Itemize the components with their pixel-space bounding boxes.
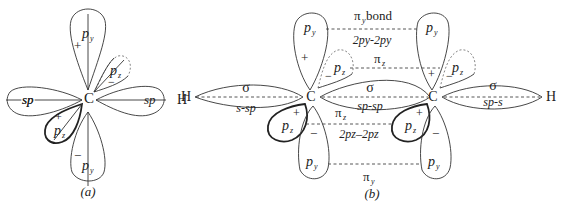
left-pz-back-sign: − <box>325 69 332 83</box>
pz-back-sub: z <box>117 71 122 80</box>
caption-b: (b) <box>364 186 379 201</box>
sigma-right-type: sp-s <box>483 95 503 109</box>
right-pz-front-sub: z <box>412 126 417 135</box>
pi-z-top-sub: z <box>381 59 386 68</box>
caption-a: (a) <box>80 184 95 199</box>
sigma-left-label: σ <box>242 80 250 95</box>
py-bottom-sub: y <box>89 166 94 175</box>
sigma-center-label: σ <box>366 80 374 95</box>
hydrogen-right: H <box>546 89 556 104</box>
left-py-bottom-label: p <box>305 154 313 169</box>
pi-z-bottom-overlap: 2pz–2pz <box>339 127 379 141</box>
right-pz-back-sign: − <box>446 69 453 83</box>
pi-y-bottom-label: π <box>363 169 370 184</box>
pz-front-label: p <box>53 123 61 138</box>
left-py-top-sub: y <box>311 28 316 37</box>
sp-left-lobe <box>7 87 82 116</box>
pz-front-sign: + <box>55 110 62 124</box>
py-top-label: p <box>81 26 89 41</box>
sigma-left-type: s-sp <box>236 101 255 115</box>
figure-a: C H p y + p y − p z − p z + sp sp sp (a) <box>6 9 187 199</box>
pi-y-top-label: π <box>354 8 361 23</box>
right-py-bottom-sub: y <box>435 162 440 171</box>
right-py-bottom-sign: − <box>432 126 439 141</box>
left-pz-back-sub: z <box>341 68 346 77</box>
pi-z-top-label: π <box>374 51 381 66</box>
left-py-bottom-sign: − <box>310 126 317 141</box>
pi-z-bottom-label: π <box>335 105 342 120</box>
py-bottom-label: p <box>81 158 89 173</box>
left-pz-back-label: p <box>333 60 341 75</box>
orbital-diagram: C H p y + p y − p z − p z + sp sp sp (a)… <box>0 0 561 210</box>
right-py-top-sub: y <box>433 28 438 37</box>
right-pz-front-sign: + <box>416 106 423 120</box>
left-py-top-label: p <box>303 20 311 35</box>
left-py-top-sign: + <box>301 50 308 65</box>
py-bottom-sign: − <box>74 148 81 163</box>
right-pz-front-label: p <box>404 118 412 133</box>
carbon-left: C <box>306 89 315 104</box>
pz-front-sub: z <box>61 131 66 140</box>
hydrogen-left: H <box>181 89 191 104</box>
right-py-top-label: p <box>425 20 433 35</box>
py-top-sign: + <box>74 38 81 53</box>
pi-y-top-overlap: 2py-2py <box>353 33 392 47</box>
sigma-center-type: sp-sp <box>357 99 382 113</box>
sigma-right-label: σ <box>489 78 497 93</box>
sp-right-label: sp <box>144 92 156 107</box>
carbon-atom-a: C <box>84 90 94 106</box>
py-top-sub: y <box>89 34 94 43</box>
left-pz-front-sub: z <box>289 126 294 135</box>
pi-y-bottom-sub: y <box>370 177 375 186</box>
left-pz-front-label: p <box>281 118 289 133</box>
right-py-top-sign: + <box>428 67 435 81</box>
pi-z-bottom-sub: z <box>342 113 347 122</box>
pi-y-top-suffix: bond <box>366 8 393 23</box>
carbon-right: C <box>428 89 437 104</box>
right-pz-back-sub: z <box>459 68 464 77</box>
right-py-bottom-label: p <box>427 154 435 169</box>
pz-back-sign: − <box>108 75 115 89</box>
left-pz-front-sign: + <box>293 106 300 120</box>
figure-b: H σ s-sp C σ sp-sp C H σ sp-s p y + p z … <box>181 8 556 201</box>
sp-left-label: sp <box>22 92 34 107</box>
left-py-bottom-sub: y <box>313 162 318 171</box>
